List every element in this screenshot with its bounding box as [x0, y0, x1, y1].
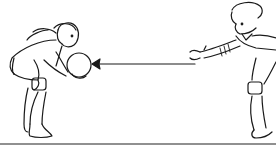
arrow-left-icon: [92, 59, 195, 69]
ball-icon: [67, 53, 91, 77]
drawing-canvas: [0, 0, 276, 146]
boy-figure: [190, 3, 276, 138]
illustration: Line drawing of a girl catching a ball t…: [0, 0, 276, 146]
girl-figure: [10, 23, 91, 138]
